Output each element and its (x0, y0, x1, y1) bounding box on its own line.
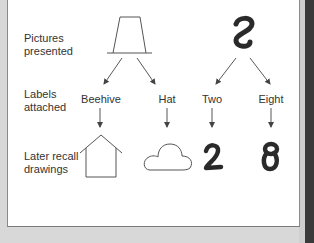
house-drawing-icon (80, 135, 122, 177)
trapezoid-hat-figure-icon (107, 17, 152, 53)
arrows-label-to-drawing (100, 108, 271, 127)
cloud-drawing-icon (144, 144, 191, 170)
diagram-graphics (0, 0, 314, 243)
arrows-picture-to-label (104, 58, 270, 84)
digit-eight-drawing-icon (264, 144, 277, 169)
digit-two-drawing-icon (206, 145, 221, 168)
s-shaped-figure-icon (236, 18, 252, 46)
